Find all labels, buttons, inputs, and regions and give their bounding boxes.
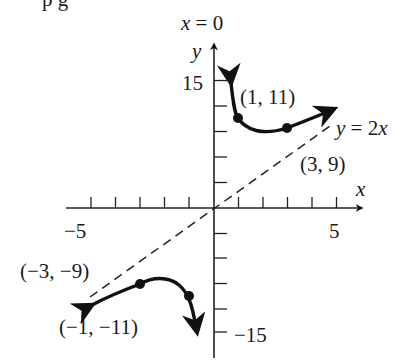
label-point-m3-m9: (−3, −9) — [20, 259, 89, 283]
x-max-label: 5 — [329, 219, 340, 243]
label-vertical-asymptote: x = 0 — [180, 11, 223, 35]
label-point-3-9: (3, 9) — [300, 152, 346, 176]
point-1-11 — [233, 113, 243, 123]
y-ticks — [214, 81, 227, 333]
label-point-1-11: (1, 11) — [240, 85, 295, 109]
label-point-m1-m11: (−1, −11) — [59, 315, 138, 339]
header-fragment: p g — [42, 0, 69, 11]
y-max-label: 15 — [182, 71, 203, 95]
x-min-label: −5 — [64, 219, 86, 243]
graph-figure: p g x = 0 y x 15 — [0, 0, 414, 364]
point-m3-m9 — [135, 279, 145, 289]
y-min-label: −15 — [234, 323, 267, 347]
point-3-9 — [282, 123, 292, 133]
graph-svg: p g x = 0 y x 15 — [0, 0, 414, 364]
point-m1-m11 — [184, 291, 194, 301]
y-axis-label: y — [190, 39, 202, 63]
x-axis-label: x — [355, 177, 366, 201]
oblique-asymptote — [90, 126, 330, 297]
label-oblique-asymptote: y = 2x — [334, 116, 388, 140]
